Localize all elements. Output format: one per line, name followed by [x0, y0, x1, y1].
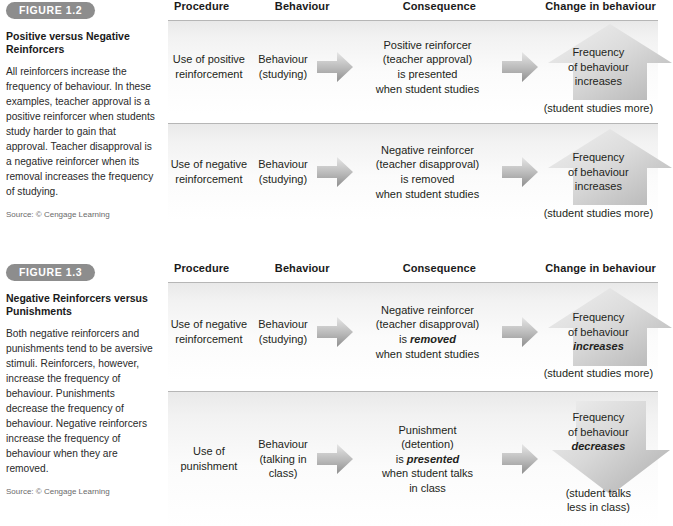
- cell-change-in-behaviour: Frequency of behaviour decreases (studen…: [539, 392, 658, 526]
- figure-1-3-header-row: Procedure Behaviour Consequence Change i…: [168, 262, 658, 282]
- cell-consequence: Punishment (detention) is presented when…: [354, 423, 501, 496]
- cell-procedure: Use of punishment: [168, 444, 250, 473]
- consequence-line-2: (teacher approval): [354, 52, 501, 67]
- change-line-1: Frequency: [568, 410, 629, 425]
- cell-consequence: Positive reinforcer (teacher approval) i…: [354, 38, 501, 96]
- change-line-2: of behaviour: [568, 325, 629, 340]
- change-note: (student studies more): [544, 101, 653, 115]
- figure-1-3-title: Negative Reinforcers versus Punishments: [6, 292, 158, 318]
- consequence-line-4: when student talks: [354, 466, 501, 481]
- figure-1-3-description: Both negative reinforcers and punishment…: [6, 327, 158, 477]
- arrow-right-2: [501, 315, 539, 349]
- change-emphasis: decreases: [571, 440, 625, 452]
- table-row: Use of negative reinforcement Behaviour …: [168, 123, 658, 220]
- consequence-line-3: is presented: [354, 452, 501, 467]
- consequence-line-1: Negative reinforcer: [354, 303, 501, 318]
- consequence-line-1: Negative reinforcer: [354, 143, 501, 158]
- figure-1-2: FIGURE 1.2 Positive versus Negative Rein…: [0, 0, 662, 232]
- figure-1-2-title: Positive versus Negative Reinforcers: [6, 30, 158, 56]
- change-note-line-2: less in class): [566, 500, 631, 514]
- consequence-emphasis: removed: [410, 333, 456, 345]
- change-line-2: of behaviour: [568, 165, 629, 180]
- consequence-line-3: is removed: [354, 332, 501, 347]
- consequence-line-1: Positive reinforcer: [354, 38, 501, 53]
- table-row: Use of negative reinforcement Behaviour …: [168, 282, 658, 381]
- change-line-1: Frequency: [568, 150, 629, 165]
- arrow-right-2: [501, 442, 539, 476]
- change-note: (student studies more): [544, 366, 653, 380]
- cell-behaviour: Behaviour (talking in class): [250, 437, 316, 481]
- figure-1-2-caption: FIGURE 1.2 Positive versus Negative Rein…: [6, 0, 158, 219]
- arrow-right-1: [316, 442, 354, 476]
- cell-change-in-behaviour: Frequency of behaviour increases (studen…: [539, 283, 658, 381]
- change-emphasis: increases: [573, 340, 624, 352]
- column-header-change-in-behaviour: Change in behaviour: [526, 0, 658, 12]
- figure-1-2-table: Procedure Behaviour Consequence Change i…: [168, 0, 658, 220]
- column-header-consequence: Consequence: [352, 262, 526, 274]
- column-header-consequence: Consequence: [352, 0, 526, 12]
- table-row: Use of punishment Behaviour (talking in …: [168, 391, 658, 526]
- cell-procedure: Use of positive reinforcement: [168, 52, 250, 81]
- column-header-procedure: Procedure: [168, 262, 267, 274]
- arrow-right-1: [316, 50, 354, 84]
- consequence-line-4: when student studies: [354, 82, 501, 97]
- cell-consequence: Negative reinforcer (teacher disapproval…: [354, 303, 501, 361]
- cell-procedure: Use of negative reinforcement: [168, 317, 250, 346]
- table-row: Use of positive reinforcement Behaviour …: [168, 20, 658, 113]
- figure-1-3-table: Procedure Behaviour Consequence Change i…: [168, 262, 658, 526]
- figure-1-3: FIGURE 1.3 Negative Reinforcers versus P…: [0, 262, 662, 509]
- figure-1-3-source: Source: © Cengage Learning: [6, 487, 158, 496]
- change-note: (student talks less in class): [566, 486, 631, 515]
- consequence-line-3: is removed: [354, 172, 501, 187]
- arrow-right-1: [316, 315, 354, 349]
- column-header-procedure: Procedure: [168, 0, 267, 12]
- figure-1-2-source: Source: © Cengage Learning: [6, 210, 158, 219]
- figure-1-3-badge: FIGURE 1.3: [6, 264, 95, 281]
- cell-change-in-behaviour: Frequency of behaviour increases (studen…: [539, 124, 658, 220]
- cell-change-in-behaviour: Frequency of behaviour increases (studen…: [539, 21, 658, 113]
- figure-1-2-badge: FIGURE 1.2: [6, 2, 95, 19]
- cell-behaviour: Behaviour (studying): [250, 317, 316, 346]
- cell-behaviour: Behaviour (studying): [250, 52, 316, 81]
- consequence-line-2: (teacher disapproval): [354, 317, 501, 332]
- consequence-line-5: in class: [354, 481, 501, 496]
- cell-behaviour: Behaviour (studying): [250, 157, 316, 186]
- consequence-emphasis: presented: [407, 453, 460, 465]
- change-note-line-1: (student talks: [566, 486, 631, 500]
- consequence-line-1: Punishment: [354, 423, 501, 438]
- cell-consequence: Negative reinforcer (teacher disapproval…: [354, 143, 501, 201]
- column-header-change-in-behaviour: Change in behaviour: [526, 262, 658, 274]
- consequence-line-3-prefix: is: [396, 453, 407, 465]
- consequence-line-3-prefix: is: [399, 333, 410, 345]
- arrow-right-1: [316, 155, 354, 189]
- figure-1-2-header-row: Procedure Behaviour Consequence Change i…: [168, 0, 658, 20]
- change-note: (student studies more): [544, 206, 653, 220]
- consequence-line-4: when student studies: [354, 347, 501, 362]
- change-line-3: increases: [568, 74, 629, 89]
- figure-1-3-caption: FIGURE 1.3 Negative Reinforcers versus P…: [6, 262, 158, 496]
- consequence-line-2: (detention): [354, 437, 501, 452]
- change-line-1: Frequency: [568, 45, 629, 60]
- arrow-right-2: [501, 50, 539, 84]
- change-line-2: of behaviour: [568, 425, 629, 440]
- consequence-line-3: is presented: [354, 67, 501, 82]
- cell-procedure: Use of negative reinforcement: [168, 157, 250, 186]
- change-line-1: Frequency: [568, 310, 629, 325]
- column-header-behaviour: Behaviour: [267, 0, 352, 12]
- change-line-3: increases: [568, 179, 629, 194]
- figure-1-2-description: All reinforcers increase the frequency o…: [6, 65, 158, 200]
- column-header-behaviour: Behaviour: [267, 262, 352, 274]
- consequence-line-4: when student studies: [354, 187, 501, 202]
- arrow-right-2: [501, 155, 539, 189]
- consequence-line-2: (teacher disapproval): [354, 157, 501, 172]
- change-line-2: of behaviour: [568, 60, 629, 75]
